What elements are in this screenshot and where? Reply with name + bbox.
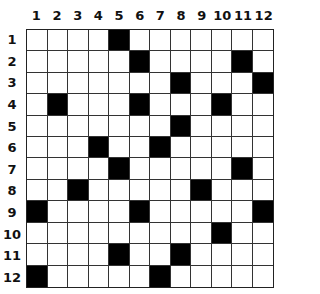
white-cell[interactable] xyxy=(89,73,110,94)
white-cell[interactable] xyxy=(150,30,171,51)
white-cell[interactable] xyxy=(191,94,212,115)
white-cell[interactable] xyxy=(68,51,89,72)
white-cell[interactable] xyxy=(89,244,110,265)
white-cell[interactable] xyxy=(253,223,274,244)
white-cell[interactable] xyxy=(130,73,151,94)
white-cell[interactable] xyxy=(89,51,110,72)
white-cell[interactable] xyxy=(130,244,151,265)
white-cell[interactable] xyxy=(191,73,212,94)
white-cell[interactable] xyxy=(89,158,110,179)
white-cell[interactable] xyxy=(232,94,253,115)
white-cell[interactable] xyxy=(27,223,48,244)
white-cell[interactable] xyxy=(212,116,233,137)
white-cell[interactable] xyxy=(212,244,233,265)
white-cell[interactable] xyxy=(48,201,69,222)
white-cell[interactable] xyxy=(109,73,130,94)
white-cell[interactable] xyxy=(191,201,212,222)
white-cell[interactable] xyxy=(253,30,274,51)
white-cell[interactable] xyxy=(109,266,130,287)
white-cell[interactable] xyxy=(27,180,48,201)
white-cell[interactable] xyxy=(27,137,48,158)
white-cell[interactable] xyxy=(232,266,253,287)
white-cell[interactable] xyxy=(191,158,212,179)
white-cell[interactable] xyxy=(232,137,253,158)
white-cell[interactable] xyxy=(150,223,171,244)
white-cell[interactable] xyxy=(171,51,192,72)
white-cell[interactable] xyxy=(171,30,192,51)
white-cell[interactable] xyxy=(109,116,130,137)
white-cell[interactable] xyxy=(171,223,192,244)
white-cell[interactable] xyxy=(130,158,151,179)
white-cell[interactable] xyxy=(130,223,151,244)
white-cell[interactable] xyxy=(191,116,212,137)
white-cell[interactable] xyxy=(27,158,48,179)
white-cell[interactable] xyxy=(171,180,192,201)
white-cell[interactable] xyxy=(48,30,69,51)
white-cell[interactable] xyxy=(253,180,274,201)
white-cell[interactable] xyxy=(109,223,130,244)
white-cell[interactable] xyxy=(232,180,253,201)
white-cell[interactable] xyxy=(150,94,171,115)
white-cell[interactable] xyxy=(150,158,171,179)
white-cell[interactable] xyxy=(130,180,151,201)
white-cell[interactable] xyxy=(109,51,130,72)
white-cell[interactable] xyxy=(27,116,48,137)
white-cell[interactable] xyxy=(191,223,212,244)
white-cell[interactable] xyxy=(89,223,110,244)
white-cell[interactable] xyxy=(89,116,110,137)
white-cell[interactable] xyxy=(68,73,89,94)
white-cell[interactable] xyxy=(212,180,233,201)
white-cell[interactable] xyxy=(253,244,274,265)
white-cell[interactable] xyxy=(253,51,274,72)
white-cell[interactable] xyxy=(48,73,69,94)
white-cell[interactable] xyxy=(89,201,110,222)
white-cell[interactable] xyxy=(48,137,69,158)
white-cell[interactable] xyxy=(150,73,171,94)
white-cell[interactable] xyxy=(232,73,253,94)
white-cell[interactable] xyxy=(89,180,110,201)
white-cell[interactable] xyxy=(48,51,69,72)
white-cell[interactable] xyxy=(191,51,212,72)
white-cell[interactable] xyxy=(191,266,212,287)
white-cell[interactable] xyxy=(109,94,130,115)
white-cell[interactable] xyxy=(150,244,171,265)
white-cell[interactable] xyxy=(130,30,151,51)
white-cell[interactable] xyxy=(130,116,151,137)
white-cell[interactable] xyxy=(150,201,171,222)
white-cell[interactable] xyxy=(191,30,212,51)
white-cell[interactable] xyxy=(212,137,233,158)
white-cell[interactable] xyxy=(48,266,69,287)
white-cell[interactable] xyxy=(212,266,233,287)
white-cell[interactable] xyxy=(109,137,130,158)
white-cell[interactable] xyxy=(109,180,130,201)
white-cell[interactable] xyxy=(150,51,171,72)
white-cell[interactable] xyxy=(191,244,212,265)
white-cell[interactable] xyxy=(27,51,48,72)
white-cell[interactable] xyxy=(48,180,69,201)
white-cell[interactable] xyxy=(171,201,192,222)
white-cell[interactable] xyxy=(130,266,151,287)
white-cell[interactable] xyxy=(171,266,192,287)
white-cell[interactable] xyxy=(253,266,274,287)
white-cell[interactable] xyxy=(89,266,110,287)
white-cell[interactable] xyxy=(68,137,89,158)
white-cell[interactable] xyxy=(212,201,233,222)
white-cell[interactable] xyxy=(48,223,69,244)
white-cell[interactable] xyxy=(68,244,89,265)
white-cell[interactable] xyxy=(253,116,274,137)
white-cell[interactable] xyxy=(212,158,233,179)
white-cell[interactable] xyxy=(89,30,110,51)
white-cell[interactable] xyxy=(48,158,69,179)
white-cell[interactable] xyxy=(27,73,48,94)
white-cell[interactable] xyxy=(68,201,89,222)
white-cell[interactable] xyxy=(68,30,89,51)
white-cell[interactable] xyxy=(48,244,69,265)
white-cell[interactable] xyxy=(68,116,89,137)
white-cell[interactable] xyxy=(232,30,253,51)
white-cell[interactable] xyxy=(232,223,253,244)
white-cell[interactable] xyxy=(150,180,171,201)
white-cell[interactable] xyxy=(232,244,253,265)
white-cell[interactable] xyxy=(212,73,233,94)
white-cell[interactable] xyxy=(68,94,89,115)
white-cell[interactable] xyxy=(48,116,69,137)
